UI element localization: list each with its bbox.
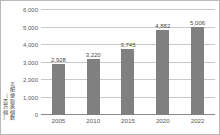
y-axis-tick-label: 5,000 xyxy=(23,25,38,31)
bar-value-label: 5,006 xyxy=(190,20,205,26)
y-axis-tick-label: 4,000 xyxy=(23,42,38,48)
bar-slot: 3,220 xyxy=(77,10,110,115)
bar-slot: 2,928 xyxy=(42,10,75,115)
y-axis-unit-text: （百万個） xyxy=(3,93,8,121)
y-axis-unit: （百万個） xyxy=(3,9,8,131)
bar-slot: 3,745 xyxy=(111,10,144,115)
y-axis-title: 宅配便取扱個数 xyxy=(10,9,15,121)
plot-area: 2,9283,2203,7454,8825,006 xyxy=(41,10,215,115)
bar xyxy=(87,59,100,115)
bar-value-label: 2,928 xyxy=(51,57,66,63)
y-axis-tick-labels: 01,0002,0003,0004,0005,0006,000 xyxy=(17,1,39,135)
x-axis-tick-label: 2020 xyxy=(146,117,179,131)
bar-series: 2,9283,2203,7454,8825,006 xyxy=(41,10,215,115)
bar-slot: 4,882 xyxy=(146,10,179,115)
bar-chart-figure: 宅配便取扱個数 （百万個） 01,0002,0003,0004,0005,000… xyxy=(0,0,220,135)
bar xyxy=(52,64,65,115)
x-axis-tick-label: 2022 xyxy=(181,117,214,131)
x-axis-tick-label: 2005 xyxy=(42,117,75,131)
x-axis-tick-labels: 20052010201520202022 xyxy=(41,117,215,131)
y-axis-tick-label: 1,000 xyxy=(23,95,38,101)
y-axis-tick-label: 3,000 xyxy=(23,60,38,66)
y-axis-tick-label: 6,000 xyxy=(23,7,38,13)
bar xyxy=(191,27,204,115)
x-axis-tick-label: 2015 xyxy=(111,117,144,131)
bar-value-label: 3,745 xyxy=(120,42,135,48)
bar xyxy=(156,30,169,115)
bar-value-label: 3,220 xyxy=(86,52,101,58)
y-axis-title-text: 宅配便取扱個数 xyxy=(10,82,15,121)
bar-slot: 5,006 xyxy=(181,10,214,115)
y-axis-tick-label: 0 xyxy=(35,112,38,118)
bar-value-label: 4,882 xyxy=(155,23,170,29)
y-axis-tick-label: 2,000 xyxy=(23,77,38,83)
y-axis-title-char: 数 xyxy=(10,115,15,121)
bar xyxy=(121,49,134,115)
x-axis-tick-label: 2010 xyxy=(77,117,110,131)
y-axis-title-char: ） xyxy=(3,115,8,121)
